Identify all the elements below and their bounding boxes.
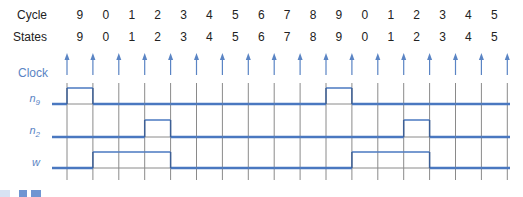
arrowhead-icon	[453, 53, 458, 60]
arrowhead-icon	[194, 53, 199, 60]
arrowhead-icon	[272, 53, 277, 60]
arrowhead-icon	[90, 53, 95, 60]
arrowhead-icon	[298, 53, 303, 60]
arrowhead-icon	[427, 53, 432, 60]
arrowhead-icon	[65, 53, 70, 60]
waveform-canvas	[0, 0, 523, 197]
arrowhead-icon	[375, 53, 380, 60]
arrowhead-icon	[116, 53, 121, 60]
caption-fragment	[0, 190, 48, 197]
arrowhead-icon	[168, 53, 173, 60]
arrowhead-icon	[401, 53, 406, 60]
arrowhead-icon	[246, 53, 251, 60]
arrowhead-icon	[220, 53, 225, 60]
arrowhead-icon	[505, 53, 510, 60]
arrowhead-icon	[349, 53, 354, 60]
arrowhead-icon	[142, 53, 147, 60]
arrowhead-icon	[324, 53, 329, 60]
arrowhead-icon	[479, 53, 484, 60]
